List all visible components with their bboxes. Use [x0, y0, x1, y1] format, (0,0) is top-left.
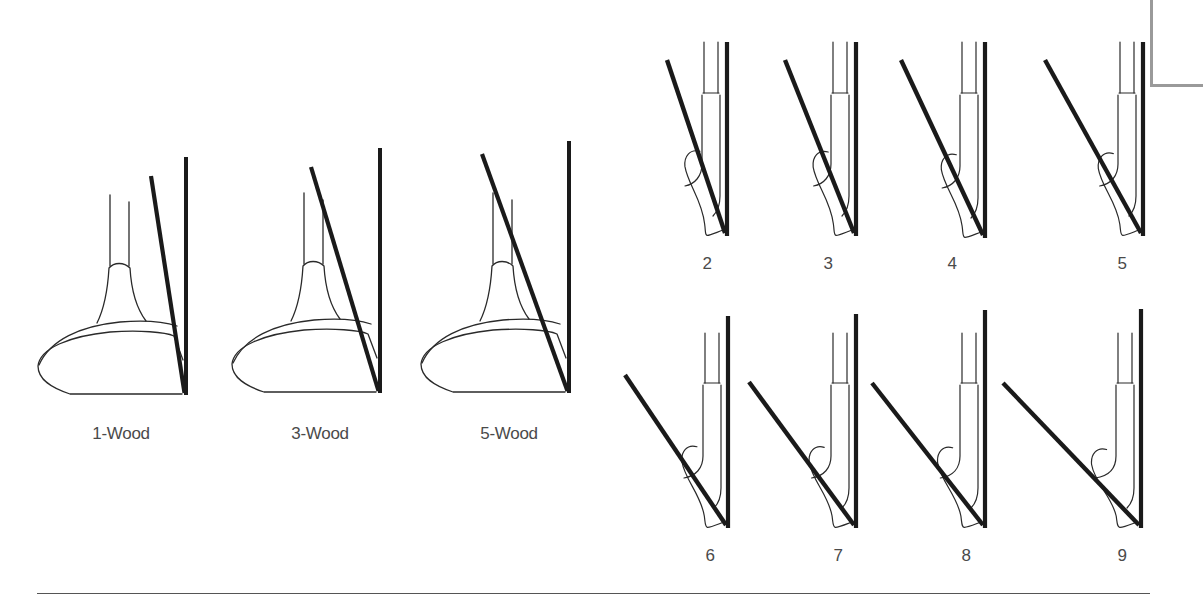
loft-angle-line [901, 60, 983, 235]
loft-angle-line [151, 176, 185, 393]
iron-club-7 [749, 314, 856, 528]
iron-blade [941, 154, 981, 237]
iron-hosel-back [940, 385, 960, 478]
loft-angle-line [311, 167, 379, 391]
iron-hosel-back [942, 95, 960, 188]
iron-hosel-front [1129, 95, 1136, 216]
iron-club-2 [667, 42, 727, 236]
iron-hosel-front [842, 95, 849, 216]
bottom-divider-rule [37, 593, 1150, 594]
iron-club-5 [1045, 42, 1143, 236]
loft-angle-line [1045, 60, 1141, 233]
iron-club-4 [901, 42, 985, 238]
loft-angle-line [625, 375, 726, 525]
loft-angle-line [872, 383, 983, 525]
iron-blade [813, 151, 852, 235]
iron-hosel-back [1095, 385, 1116, 478]
iron-label-8: 8 [961, 546, 970, 566]
woods-group [38, 141, 569, 395]
iron-club-3 [785, 42, 856, 236]
iron-hosel-front [971, 95, 978, 218]
irons-group [625, 42, 1143, 528]
iron-label-3: 3 [823, 254, 832, 274]
corner-bracket-decoration [1150, 0, 1203, 87]
loft-angle-line [667, 60, 725, 233]
wood-label-3: 3-Wood [291, 424, 348, 444]
iron-hosel-front [1127, 385, 1134, 508]
iron-label-6: 6 [705, 546, 714, 566]
iron-label-2: 2 [702, 254, 711, 274]
wood-label-1: 1-Wood [92, 424, 149, 444]
wood-club-1-wood [38, 157, 186, 395]
iron-label-9: 9 [1117, 546, 1126, 566]
wood-hosel [97, 264, 146, 324]
iron-label-5: 5 [1117, 254, 1126, 274]
iron-hosel-front [971, 385, 978, 508]
iron-label-4: 4 [947, 254, 956, 274]
iron-club-6 [625, 316, 728, 528]
loft-angle-line [749, 382, 854, 525]
iron-club-8 [872, 310, 985, 528]
iron-label-7: 7 [833, 546, 842, 566]
iron-hosel-front [714, 385, 721, 508]
iron-club-9 [1003, 309, 1141, 528]
wood-hosel [291, 262, 340, 322]
loft-angle-line [785, 60, 854, 233]
wood-club-3-wood [232, 148, 380, 393]
iron-hosel-front [842, 385, 849, 508]
wood-club-5-wood [421, 141, 569, 393]
loft-angle-line [1003, 383, 1139, 525]
loft-angle-line [482, 154, 568, 391]
wood-hosel [480, 262, 529, 322]
wood-label-5: 5-Wood [480, 424, 537, 444]
iron-hosel-back [812, 385, 831, 478]
